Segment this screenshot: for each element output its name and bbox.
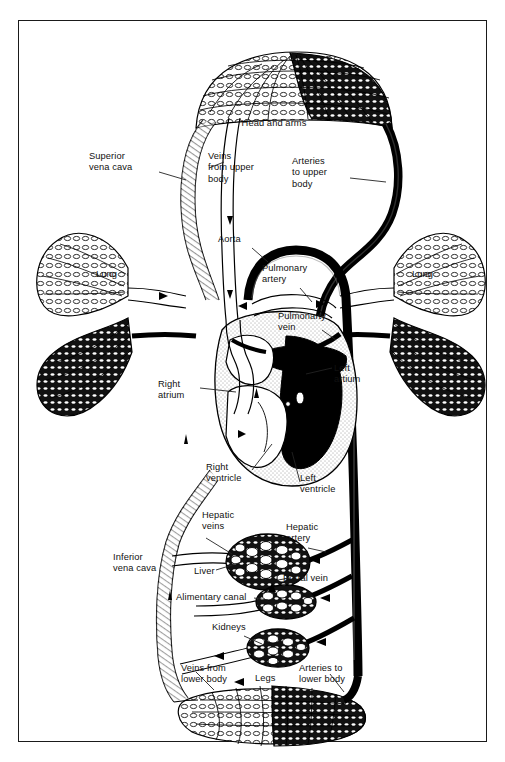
label-pulmonary-artery: Pulmonary artery <box>262 263 307 286</box>
label-hepatic-artery: Hepatic artery <box>286 522 318 545</box>
label-alimentary-canal: Alimentary canal <box>176 592 246 603</box>
label-portal-vein: Portal vein <box>283 573 328 584</box>
capillary-bed-legs <box>178 686 365 746</box>
leader-hepatic-artery <box>308 548 326 552</box>
label-superior-vena-cava: Superior vena cava <box>89 151 132 174</box>
leader-hepatic-veins <box>206 538 232 554</box>
label-pulmonary-vein: Pulmonarty vein <box>278 311 326 334</box>
flow-arrow-lung-left-in <box>159 292 168 300</box>
label-kidneys: Kidneys <box>212 622 246 633</box>
label-lung-left: Lung <box>96 269 117 280</box>
label-veins-from-upper-body: Veins from upper body <box>208 151 254 185</box>
flow-arrow-ivc-up-1 <box>184 434 188 444</box>
label-arteries-to-lower-body: Arteries to lower body <box>299 663 345 686</box>
leader-arteries-upper <box>350 178 386 182</box>
capillary-bed-head-and-arms <box>196 52 392 128</box>
label-aorta: Aorta <box>218 234 241 245</box>
flow-arrow-pulmonary-left <box>238 302 247 310</box>
label-left-atrium: Left artium <box>334 363 360 386</box>
flow-arrow-kidney-vein <box>214 652 224 660</box>
flow-arrow-alimentary-artery <box>320 594 330 602</box>
label-hepatic-veins: Hepatic veins <box>202 510 234 533</box>
label-head-and-arms: Head and arms <box>224 118 324 129</box>
artery-upper-body <box>320 124 398 316</box>
capillary-bed-kidneys <box>247 629 309 667</box>
flow-arrow-leg-vein <box>234 678 244 686</box>
label-right-ventricle: Right ventricle <box>206 462 242 485</box>
label-legs: Legs <box>255 673 276 684</box>
label-veins-from-lower-body: Veins from lower body <box>181 663 227 686</box>
label-right-atrium: Right atrium <box>158 379 184 402</box>
label-inferior-vena-cava: Inferior vena cava <box>113 552 156 575</box>
label-liver: Liver <box>194 566 215 577</box>
label-left-ventricle: Left ventricle <box>300 473 336 496</box>
label-lung-right: Lung <box>412 269 433 280</box>
flow-arrow-svc-lower <box>227 290 233 299</box>
label-arteries-to-upper-body: Arteries to upper body <box>292 156 327 190</box>
vein-upper-body <box>181 120 219 300</box>
circulatory-system-illustration <box>0 0 505 762</box>
capillary-bed-alimentary-canal <box>256 585 316 619</box>
flow-arrow-svc-down <box>227 216 233 225</box>
